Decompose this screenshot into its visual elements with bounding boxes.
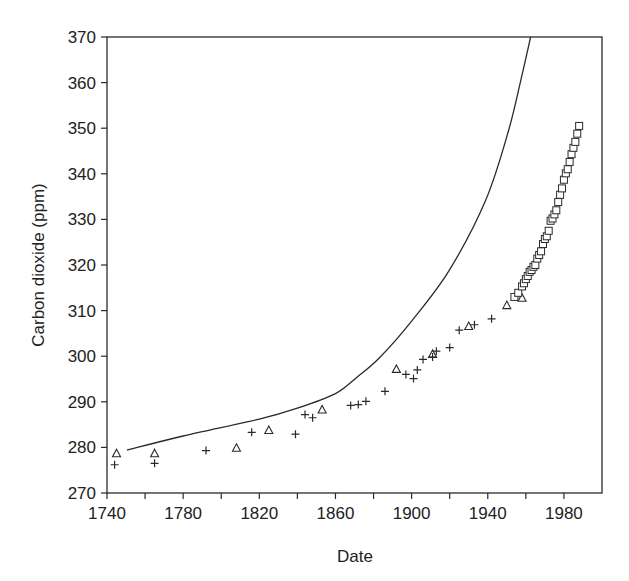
x-axis: 1740178018201860190019401980 (88, 493, 583, 523)
y-tick-label: 310 (68, 302, 96, 321)
plot-frame (107, 37, 602, 493)
x-tick-label: 1900 (393, 504, 431, 523)
square-marker (572, 138, 579, 145)
series-plus (111, 315, 496, 469)
square-marker (553, 207, 560, 214)
square-marker (555, 199, 562, 206)
y-tick-label: 280 (68, 438, 96, 457)
square-marker (576, 122, 583, 129)
plus-marker (151, 459, 159, 467)
triangle-marker (151, 449, 159, 457)
plus-marker (488, 315, 496, 323)
square-marker (559, 185, 566, 192)
plus-marker (291, 430, 299, 438)
square-marker (545, 227, 552, 234)
x-tick-label: 1780 (164, 504, 202, 523)
square-marker (574, 130, 581, 137)
plus-marker (248, 428, 256, 436)
square-marker (538, 248, 545, 255)
series-layer (111, 37, 583, 469)
triangle-marker (113, 449, 121, 457)
square-marker (566, 158, 573, 165)
plus-marker (419, 355, 427, 363)
triangle-marker (232, 444, 240, 452)
plus-marker (309, 414, 317, 422)
series-triangle (113, 294, 527, 457)
plus-marker (410, 375, 418, 383)
x-tick-label: 1940 (469, 504, 507, 523)
x-axis-title: Date (337, 547, 373, 566)
y-axis-title: Carbon dioxide (ppm) (29, 183, 48, 346)
y-axis: 270280290300310320330340350360370 (68, 28, 107, 503)
plus-marker (413, 366, 421, 374)
square-marker (564, 166, 571, 173)
co2-curve (127, 37, 531, 450)
x-tick-label: 1980 (545, 504, 583, 523)
y-tick-label: 370 (68, 28, 96, 47)
x-tick-label: 1740 (88, 504, 126, 523)
plus-marker (354, 401, 362, 409)
x-tick-label: 1820 (240, 504, 278, 523)
plus-marker (111, 461, 119, 469)
y-tick-label: 360 (68, 74, 96, 93)
plus-marker (347, 401, 355, 409)
plus-marker (362, 397, 370, 405)
plus-marker (301, 411, 309, 419)
co2-chart: 270280290300310320330340350360370 174017… (0, 0, 629, 581)
y-tick-label: 340 (68, 165, 96, 184)
triangle-marker (265, 426, 273, 434)
plus-marker (381, 387, 389, 395)
y-tick-label: 270 (68, 484, 96, 503)
series-curve (127, 37, 531, 450)
y-tick-label: 330 (68, 210, 96, 229)
y-tick-label: 350 (68, 119, 96, 138)
x-tick-label: 1860 (317, 504, 355, 523)
plus-marker (402, 370, 410, 378)
plus-marker (202, 447, 210, 455)
y-tick-label: 300 (68, 347, 96, 366)
triangle-marker (465, 322, 473, 330)
plus-marker (446, 344, 454, 352)
triangle-marker (503, 301, 511, 309)
triangle-marker (392, 365, 400, 373)
series-square (511, 122, 583, 300)
y-tick-label: 320 (68, 256, 96, 275)
triangle-marker (318, 406, 326, 414)
y-tick-label: 290 (68, 393, 96, 412)
plot-border (107, 37, 602, 493)
plus-marker (455, 326, 463, 334)
